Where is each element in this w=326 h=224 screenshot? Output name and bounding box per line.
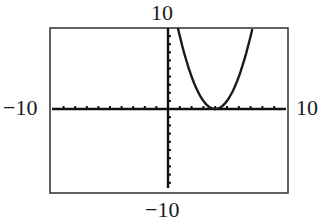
- axes: [52, 28, 286, 188]
- graph-plot: [0, 0, 326, 224]
- function-graph: [178, 28, 252, 109]
- parabola-curve: [178, 28, 252, 109]
